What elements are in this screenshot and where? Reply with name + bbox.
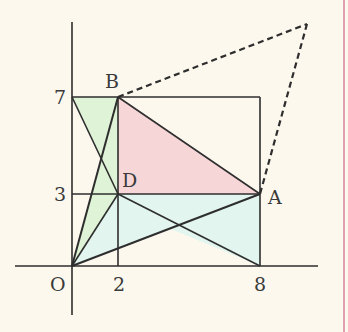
coordinate-diagram: B D A O 2 8 3 7 <box>0 0 348 332</box>
label-a: A <box>267 186 282 208</box>
label-b: B <box>105 70 119 92</box>
label-d: D <box>122 169 137 191</box>
tick-x8: 8 <box>254 273 266 295</box>
tick-x2: 2 <box>113 273 125 295</box>
dashed-p-to-a <box>260 24 307 194</box>
tick-y3: 3 <box>54 183 66 205</box>
label-o: O <box>50 273 66 295</box>
tick-y7: 7 <box>54 86 66 108</box>
dashed-b-to-p <box>118 24 307 97</box>
